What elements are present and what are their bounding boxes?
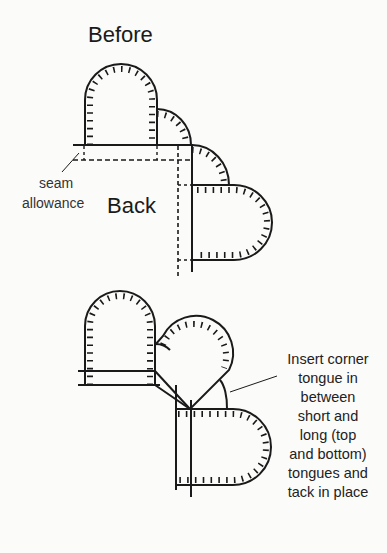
note-leader-line — [230, 376, 277, 392]
top-short-tongue-stitches — [157, 114, 186, 145]
right-long-tongue — [192, 185, 272, 260]
top-short-tongue — [157, 109, 191, 145]
corner-tongue-edge-left — [155, 371, 190, 409]
top-long-tongue-stitches — [90, 69, 152, 145]
after-diagram — [78, 291, 277, 497]
corner-tongue-stitches — [163, 324, 226, 368]
right-short-tongue — [192, 145, 229, 185]
right-long-tongue-stitches — [197, 190, 267, 255]
corner-tongue-outline — [155, 316, 233, 409]
top-long-tongue — [85, 64, 157, 145]
seam-leader-line — [62, 153, 79, 172]
tongue-diagram — [0, 0, 387, 553]
before-diagram — [62, 64, 272, 276]
right-short-tongue-stitches — [192, 150, 224, 185]
